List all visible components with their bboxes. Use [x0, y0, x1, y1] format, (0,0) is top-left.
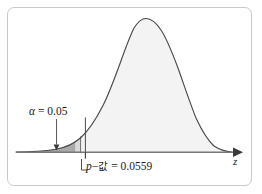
- pvalue-annotation-label: p−값 = 0.0559: [86, 161, 152, 173]
- alpha-value: 0.05: [47, 105, 67, 117]
- distribution-body-fill: [16, 19, 232, 153]
- pvalue-value: 0.0559: [121, 160, 153, 172]
- alpha-equals: =: [35, 105, 47, 117]
- alpha-annotation-label: α = 0.05: [29, 106, 67, 118]
- axis-label-z: z: [233, 156, 237, 167]
- pvalue-korean-word: 값: [98, 160, 108, 172]
- figure-root: α = 0.05 p−값 = 0.0559 z: [0, 0, 262, 194]
- pvalue-equals: =: [108, 160, 120, 172]
